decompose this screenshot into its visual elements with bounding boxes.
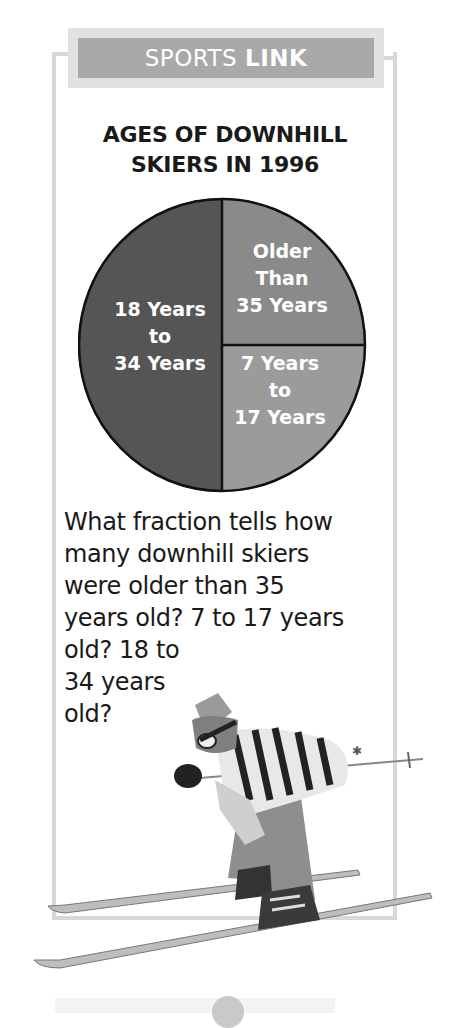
footer-bar (55, 998, 335, 1013)
decorative-ball (212, 996, 244, 1028)
svg-text:✱: ✱ (352, 744, 362, 758)
